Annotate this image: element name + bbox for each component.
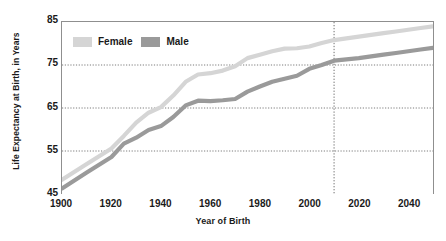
x-axis-ticks: 19001920194019601980200020202040: [0, 198, 446, 214]
legend-swatch-male: [141, 37, 160, 47]
y-tick-label-55: 55: [18, 144, 58, 155]
legend-item-female: Female: [73, 36, 132, 47]
legend-swatch-female: [73, 37, 92, 47]
legend-label-male: Male: [166, 36, 188, 47]
x-axis-title: Year of Birth: [0, 216, 446, 226]
y-tick-label-45: 45: [18, 187, 58, 198]
y-tick-label-65: 65: [18, 101, 58, 112]
series-line-male: [62, 48, 433, 189]
legend-item-male: Male: [141, 36, 188, 47]
cutoff-caption-text: [6, 0, 440, 3]
y-tick-label-85: 85: [18, 14, 58, 25]
series-line-female: [62, 26, 433, 180]
plot-svg: [62, 22, 433, 194]
y-tick-label-75: 75: [18, 57, 58, 68]
x-tick-label-2040: 2040: [379, 198, 439, 209]
chart-legend: Female Male: [73, 36, 189, 47]
legend-label-female: Female: [98, 36, 132, 47]
chart-figure: Life Expectancy at Birth, in Years 45556…: [0, 0, 446, 241]
